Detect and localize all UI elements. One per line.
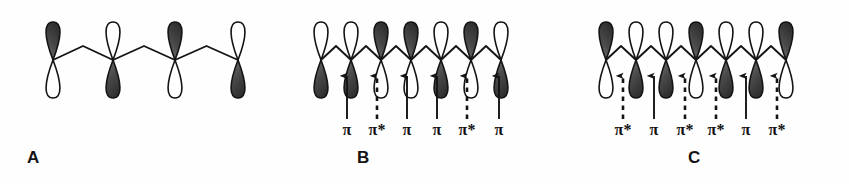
p-orbital [599, 22, 613, 98]
orbital-diagram-figure: A ππ*πππ*π B π*ππ*π*ππ* C [0, 0, 849, 184]
panel-b-pi-labels: ππ*πππ*π [283, 122, 566, 148]
orbital-lobe-filled [168, 22, 182, 60]
p-orbital [494, 22, 508, 98]
pi-label: π [343, 122, 352, 138]
panel-c-letter: C [553, 148, 836, 168]
p-orbital [659, 22, 673, 98]
pi-star-label: π* [615, 122, 632, 138]
bond-skeleton [53, 46, 238, 60]
orbital-lobe-filled [314, 60, 328, 98]
orbital-lobe-empty [689, 60, 703, 98]
orbital-lobe-empty [46, 60, 60, 98]
panel-c: π*ππ*π*ππ* C [566, 0, 849, 184]
pi-star-label: π* [769, 122, 786, 138]
orbital-lobe-filled [494, 60, 508, 98]
p-orbital [779, 22, 793, 98]
orbital-lobe-filled [231, 60, 245, 98]
pi-star-label: π* [369, 122, 386, 138]
p-orbital [464, 22, 478, 98]
panel-b: ππ*πππ*π B [283, 0, 566, 184]
panel-b-letter: B [222, 148, 505, 168]
p-orbital [629, 22, 643, 98]
pi-star-label: π* [708, 122, 725, 138]
orbital-lobe-filled [629, 60, 643, 98]
orbital-lobe-empty [106, 22, 120, 60]
orbital-lobe-empty [779, 60, 793, 98]
orbital-lobe-filled [106, 60, 120, 98]
panel-a-letter: A [0, 148, 175, 168]
orbital-lobe-filled [659, 60, 673, 98]
p-orbital [106, 22, 120, 98]
pi-label: π [650, 122, 659, 138]
p-orbital [374, 22, 388, 98]
orbital-lobe-empty [231, 22, 245, 60]
p-orbital [749, 22, 763, 98]
orbital-lobe-empty [599, 60, 613, 98]
panel-c-pi-labels: π*ππ*π*ππ* [566, 122, 849, 148]
p-orbital [689, 22, 703, 98]
p-orbital [46, 22, 60, 98]
pi-star-label: π* [677, 122, 694, 138]
panel-a-pi-labels [0, 122, 283, 148]
p-orbital [719, 22, 733, 98]
pi-label: π [742, 122, 751, 138]
p-orbital [314, 22, 328, 98]
orbital-lobe-filled [719, 60, 733, 98]
orbital-lobe-empty [168, 60, 182, 98]
p-orbital [168, 22, 182, 98]
p-orbital [231, 22, 245, 98]
orbital-lobe-filled [749, 60, 763, 98]
orbital-lobe-filled [46, 22, 60, 60]
pi-label: π [403, 122, 412, 138]
pi-star-label: π* [459, 122, 476, 138]
pi-label: π [495, 122, 504, 138]
pi-label: π [433, 122, 442, 138]
